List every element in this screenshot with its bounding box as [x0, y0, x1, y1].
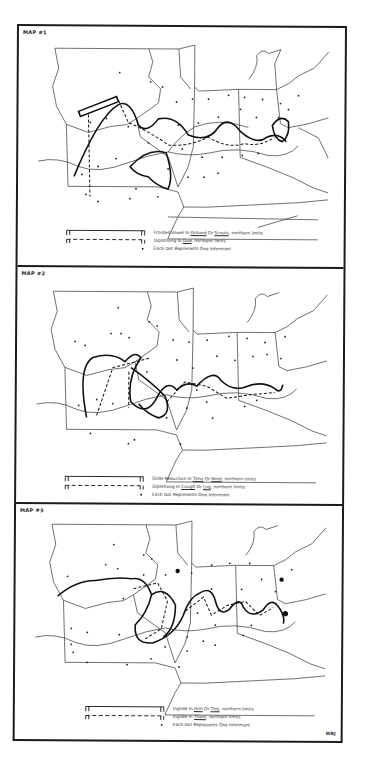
map-panel-1: MAP #1 — [18, 26, 345, 269]
map-legend: Glide Reduction In Time Or Mind, norther… — [64, 474, 256, 499]
legend-text: Glide Reduction In Time Or Mind, norther… — [152, 477, 256, 482]
solid-line-symbol — [64, 475, 144, 481]
map-panel-2: MAP #2 — [16, 267, 343, 506]
legend-text: Inglide In Him Or This, northern limits — [173, 707, 254, 712]
legend-row-dot: Each Dot Represents One Informant — [64, 490, 256, 499]
legend-text: Diphthong In Cough Or Log, northern limi… — [152, 485, 245, 490]
solid-line-symbol — [85, 705, 165, 711]
dashed-line-symbol — [85, 713, 165, 719]
solid-line-symbol — [66, 229, 146, 235]
legend-row-dot: Each Dot Represents One Informant — [66, 244, 263, 253]
map-legend: Fronted Vowel In Ground Or Scouts, north… — [66, 228, 264, 253]
figure-frame: MAP #1 — [13, 24, 347, 743]
legend-row-dot: Each Dot Represents One Informant — [85, 720, 254, 729]
legend-text: Fronted Vowel In Ground Or Scouts, north… — [154, 231, 263, 236]
map-panel-3: MAP #3 — [15, 504, 342, 741]
dashed-line-symbol — [66, 237, 146, 243]
dot-symbol — [64, 491, 144, 497]
legend-text: Each Dot Represents One Informant — [154, 247, 231, 252]
legend-text: Each Dot Represents One Informant — [173, 723, 250, 728]
legend-text: Diphthong In Due, northern limits — [154, 239, 226, 244]
author-signature: WBJ — [326, 731, 336, 736]
legend-text: Inglide In Them, northern limits — [173, 715, 241, 720]
dashed-line-symbol — [64, 483, 144, 489]
map-drawing — [16, 267, 347, 506]
legend-text: Each Dot Represents One Informant — [152, 493, 229, 498]
map-legend: Inglide In Him Or This, northern limits … — [85, 704, 254, 729]
dot-symbol — [66, 245, 146, 251]
dot-symbol — [85, 721, 165, 727]
